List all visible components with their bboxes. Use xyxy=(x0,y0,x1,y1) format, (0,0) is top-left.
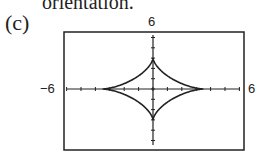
plot-frame xyxy=(64,32,244,150)
plot xyxy=(0,0,266,155)
